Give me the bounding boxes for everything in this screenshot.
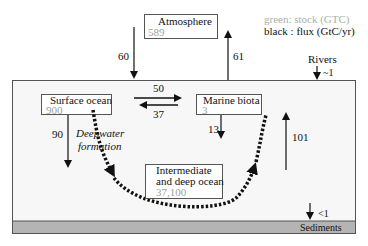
- marine-biota-label: Marine biota: [203, 94, 260, 106]
- flux-label-to-sediments: <1: [318, 208, 329, 219]
- atmosphere-label: Atmosphere: [158, 15, 212, 27]
- legend-flux: black : flux (GtC/yr): [264, 25, 355, 38]
- flux-label-atm-to-ocean: 60: [118, 50, 130, 62]
- marine-biota-stock: 3: [202, 104, 208, 116]
- atmosphere-stock: 589: [148, 26, 165, 38]
- surface-ocean-stock: 900: [46, 104, 63, 116]
- flux-label-rivers: ~1: [323, 67, 333, 78]
- flux-label-surface-to-deep: 90: [52, 128, 64, 140]
- flux-label-deep-to-surface: 101: [292, 131, 309, 143]
- flux-label-biota-to-surface: 37: [153, 108, 165, 120]
- rivers-label: Rivers: [308, 53, 337, 65]
- deep-ocean-stock: 37,100: [156, 186, 187, 198]
- sediments-label: Sediments: [300, 222, 342, 233]
- ocean-carbon-cycle-diagram: Sediments Atmosphere 589 green: stock (G…: [0, 0, 368, 246]
- flux-label-surface-to-biota: 50: [153, 82, 165, 94]
- flux-label-ocean-to-atm: 61: [233, 50, 244, 62]
- flux-label-biota-to-deep: 13: [208, 123, 220, 135]
